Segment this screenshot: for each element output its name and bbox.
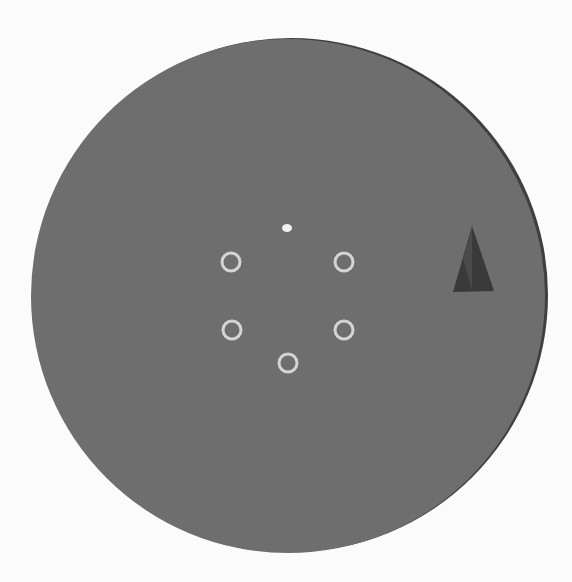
gray-disc-field <box>31 39 545 553</box>
stimulus-stage: Visual stimulus display Gray circular fi… <box>0 0 572 582</box>
fixation-dot-icon <box>282 224 292 232</box>
stimulus-canvas <box>0 0 572 582</box>
